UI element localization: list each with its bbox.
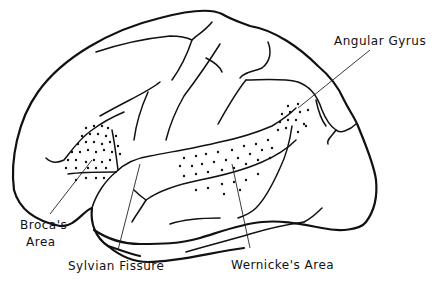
wernicke-leader [232,164,250,248]
broca-label-line2: Area [26,235,56,249]
wernicke-area-stipple [179,103,309,195]
sylvian-fissure-leader [118,164,140,250]
sylvian-fissure-label: Sylvian Fissure [68,259,164,273]
wernicke-label: Wernicke's Area [231,258,334,272]
broca-leader [50,160,92,214]
brain-diagram: Angular Gyrus Broca's Area Sylvian Fissu… [0,0,440,281]
angular-gyrus-label: Angular Gyrus [334,34,426,48]
brain-outline [13,11,376,262]
leader-lines [50,50,370,250]
broca-label-line1: Broca's [20,218,67,232]
